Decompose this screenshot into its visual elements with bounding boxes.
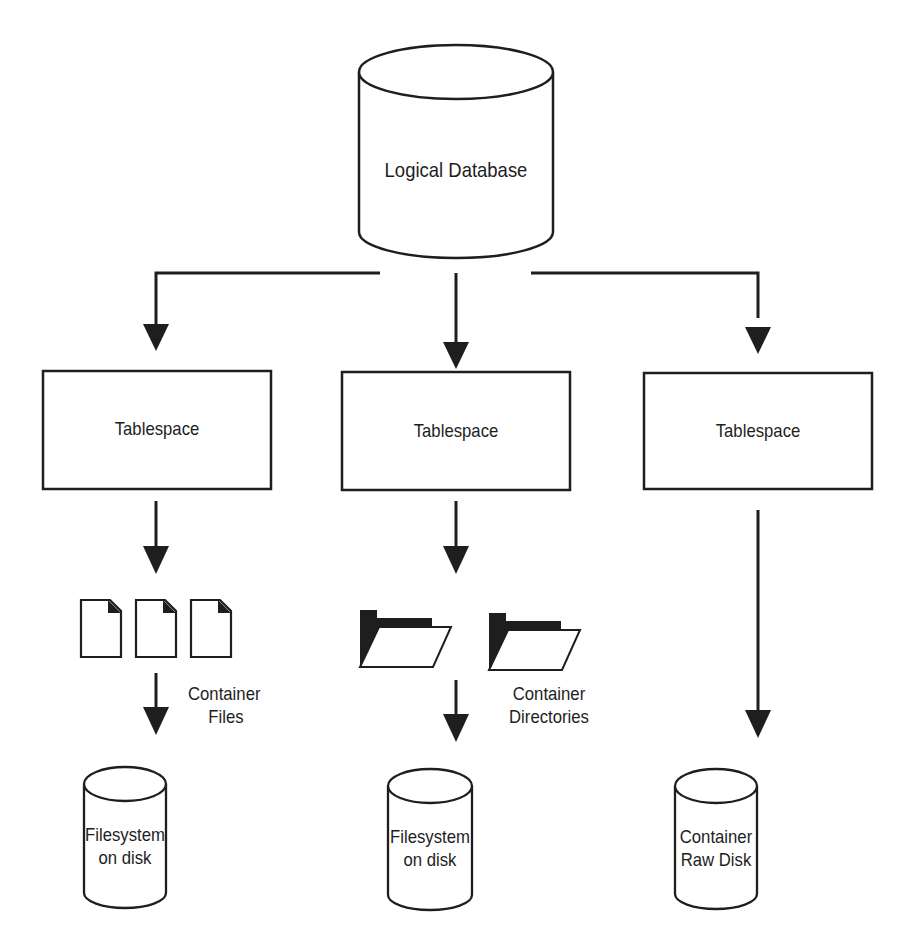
filesystem-label-1-line-1: Filesystem [81,823,169,846]
raw-disk-label: Container Raw Disk [672,825,760,871]
arrow-to-container-files [143,546,169,574]
container-directories-label-line-2: Directories [501,705,598,728]
filesystem-label-2-line-2: on disk [386,848,474,871]
filesystem-label-1-line-2: on disk [81,846,169,869]
folder-icon [489,613,580,670]
container-files-label: Container Files [188,682,261,728]
document-icon [81,600,121,657]
document-icon [191,600,231,657]
container-directories-label: Container Directories [501,682,598,728]
logical-database-cylinder [359,45,553,258]
container-directories-label-line-1: Container [501,682,598,705]
root-connector [156,273,758,345]
logical-database-label: Logical Database [368,158,544,181]
tablespace-label-2: Tablespace [356,419,557,442]
tablespace-label-1: Tablespace [57,417,258,440]
arrow-to-filesystem-2 [443,714,469,742]
folder-icon [360,610,451,668]
arrow-to-container-directories [443,546,469,574]
tablespace-label-3: Tablespace [658,419,859,442]
diagram-canvas [0,0,910,945]
arrow-to-filesystem-1 [143,707,169,735]
arrow-to-raw-disk [745,710,771,738]
filesystem-label-2-line-1: Filesystem [386,825,474,848]
filesystem-label-2: Filesystem on disk [386,825,474,871]
arrow-to-tablespace-2 [443,342,469,369]
arrow-to-tablespace-1 [143,324,169,351]
document-icon [136,600,176,657]
arrow-to-tablespace-3 [745,327,771,354]
raw-disk-label-line-1: Container [672,825,760,848]
container-files-label-line-1: Container [188,682,261,705]
raw-disk-label-line-2: Raw Disk [672,848,760,871]
container-files-label-line-2: Files [188,705,261,728]
filesystem-label-1: Filesystem on disk [81,823,169,869]
